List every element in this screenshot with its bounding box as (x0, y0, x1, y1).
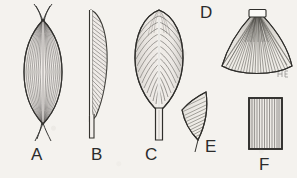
label-d: D (200, 4, 213, 21)
label-b: B (91, 146, 103, 163)
specimen-b (78, 4, 120, 144)
specimen-f (245, 96, 289, 158)
label-c: C (145, 146, 158, 163)
stalk-b (90, 114, 95, 138)
basal-sheath-d (249, 10, 266, 18)
label-a: A (31, 146, 43, 163)
specimen-a (12, 2, 74, 142)
artist-mark (278, 71, 288, 77)
botanical-plate: A (0, 0, 297, 178)
leaf-tip-e (195, 140, 198, 152)
specimen-d (218, 8, 296, 84)
label-f: F (259, 156, 270, 173)
label-e: E (205, 138, 217, 155)
leaf-tip-bottom (35, 122, 51, 141)
